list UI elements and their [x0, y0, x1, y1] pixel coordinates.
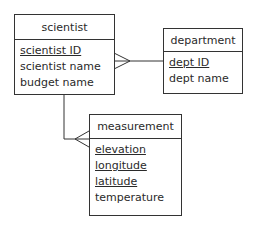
attribute-primary-key: scientist ID [20, 43, 114, 59]
attribute-primary-key: latitude [95, 174, 181, 190]
attribute: dept name [169, 71, 242, 87]
attribute: scientist name [20, 59, 114, 75]
attribute-primary-key: dept ID [169, 55, 242, 71]
attribute-primary-key: elevation [95, 142, 181, 158]
entity-scientist[interactable]: scientist scientist ID scientist name bu… [14, 14, 115, 95]
entity-department[interactable]: department dept ID dept name [163, 28, 243, 94]
entity-measurement[interactable]: measurement elevation longitude latitude… [89, 114, 182, 216]
attribute-primary-key: longitude [95, 158, 181, 174]
crows-foot-scientist-department [114, 53, 163, 69]
crows-foot-scientist-measurement [64, 94, 89, 147]
attribute: budget name [20, 75, 114, 91]
entity-title: measurement [90, 115, 181, 139]
entity-title: scientist [15, 15, 114, 40]
entity-title: department [164, 29, 242, 52]
attribute: temperature [95, 190, 181, 206]
